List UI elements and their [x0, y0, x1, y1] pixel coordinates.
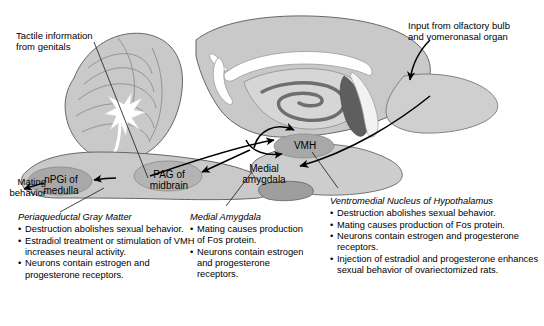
list-item: Mating causes production of Fos protein.: [190, 224, 312, 246]
text-block-medial-amygdala-bullets: Mating causes production of Fos protein.…: [190, 224, 312, 280]
text-block-vmh: Ventromedial Nucleus of Hypothalamus Des…: [330, 196, 542, 277]
text-block-medial-amygdala-title: Medial Amygdala: [190, 212, 312, 223]
list-item: Destruction abolishes sexual behavior.: [18, 224, 198, 235]
list-item: Neurons contain estrogen and progesteron…: [330, 231, 542, 253]
list-item: Neurons contain estrogen and progesteron…: [190, 247, 312, 281]
text-block-vmh-bullets: Destruction abolishes sexual behavior. M…: [330, 208, 542, 276]
text-block-pag-title: Periaqueductal Gray Matter: [18, 212, 198, 223]
text-block-pag: Periaqueductal Gray Matter Destruction a…: [18, 212, 198, 281]
annotation-tactile-input: Tactile information from genitals: [16, 30, 93, 52]
text-block-vmh-title: Ventromedial Nucleus of Hypothalamus: [330, 196, 542, 207]
annotation-olfactory-input: Input from olfactory bulb and vomeronasa…: [408, 20, 510, 42]
olfactory-bulb-region: [386, 74, 498, 133]
text-block-medial-amygdala: Medial Amygdala Mating causes production…: [190, 212, 312, 281]
list-item: Injection of estradiol and progesterone …: [330, 254, 542, 276]
list-item: Mating causes production of Fos protein.: [330, 220, 542, 231]
cerebellum: [65, 33, 182, 161]
nucleus-label-medial-amygdala: Medial amygdala: [236, 163, 292, 186]
nucleus-label-vmh: VMH: [284, 140, 326, 151]
text-block-pag-bullets: Destruction abolishes sexual behavior. E…: [18, 224, 198, 281]
diagram-canvas: nPGi of medulla PAG of midbrain Medial a…: [0, 0, 544, 326]
list-item: Estradiol treatment or stimulation of VM…: [18, 236, 198, 258]
nucleus-label-pag: PAG of midbrain: [136, 169, 202, 192]
list-item: Neurons contain estrogen and progesteron…: [18, 258, 198, 280]
annotation-mating-behavior: Mating behavior: [2, 176, 46, 198]
list-item: Destruction abolishes sexual behavior.: [330, 208, 542, 219]
